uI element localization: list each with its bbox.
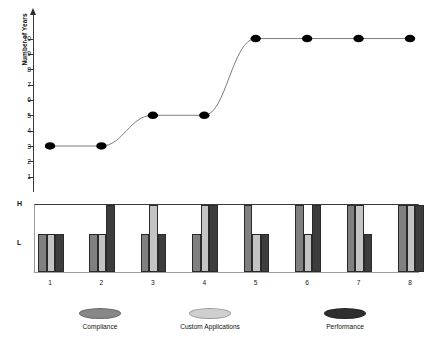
bar-group	[38, 205, 65, 272]
bar-chart-panel	[34, 204, 419, 273]
line-plot-area	[34, 14, 420, 192]
data-point-marker[interactable]	[148, 112, 158, 119]
bar[interactable]	[304, 234, 313, 272]
bar[interactable]	[364, 234, 373, 272]
bar-groups	[35, 205, 418, 272]
bar-group	[295, 205, 322, 272]
legend-label: Performance	[290, 323, 400, 331]
bar[interactable]	[192, 234, 201, 272]
legend-item[interactable]: Custom Applications	[155, 308, 265, 331]
bar[interactable]	[106, 205, 115, 272]
y-axis-tick-label: 4	[20, 127, 31, 134]
x-axis-tick-label: 6	[299, 279, 315, 286]
x-axis-tick-label: 4	[196, 279, 212, 286]
bar[interactable]	[158, 234, 167, 272]
y-axis-tick-label: 2	[20, 158, 31, 165]
x-axis-tick-label: 7	[351, 279, 367, 286]
bar[interactable]	[47, 234, 56, 272]
x-axis-tick-label: 1	[42, 279, 58, 286]
y-axis-tick-label: 10	[20, 35, 31, 42]
y-axis-tick-label: 6	[20, 96, 31, 103]
line-series-svg	[34, 14, 420, 192]
bar[interactable]	[407, 205, 416, 272]
bar[interactable]	[98, 234, 107, 272]
bar-axis-low-label: L	[17, 239, 29, 247]
bar[interactable]	[347, 205, 356, 272]
legend-label: Compliance	[45, 323, 155, 331]
y-axis-tick-label: 8	[20, 66, 31, 73]
x-axis-tick-label: 3	[145, 279, 161, 286]
data-point-marker[interactable]	[405, 35, 415, 42]
bar[interactable]	[398, 205, 407, 272]
bar[interactable]	[55, 234, 64, 272]
data-point-marker[interactable]	[251, 35, 261, 42]
y-axis-tick-label: 3	[20, 143, 31, 150]
bar[interactable]	[295, 205, 304, 272]
chart-canvas: Number of Years 12345678910 H L 12345678…	[0, 0, 428, 345]
bar[interactable]	[209, 205, 218, 272]
bar-group	[89, 205, 116, 272]
bar[interactable]	[415, 205, 424, 272]
data-point-marker[interactable]	[302, 35, 312, 42]
bar[interactable]	[89, 234, 98, 272]
bar[interactable]	[141, 234, 150, 272]
y-axis-tick-label: 1	[20, 173, 31, 180]
x-axis-tick-label: 5	[248, 279, 264, 286]
legend-item[interactable]: Compliance	[45, 308, 155, 331]
legend-label: Custom Applications	[155, 323, 265, 331]
x-axis-tick-label: 2	[93, 279, 109, 286]
bar[interactable]	[355, 205, 364, 272]
line-series-path	[50, 39, 410, 146]
data-point-marker[interactable]	[45, 142, 55, 149]
bar-axis-high-label: H	[17, 200, 29, 208]
data-point-marker[interactable]	[96, 142, 106, 149]
data-point-marker[interactable]	[199, 112, 209, 119]
bar[interactable]	[149, 205, 158, 272]
legend-ellipse-icon	[189, 308, 231, 319]
bar[interactable]	[244, 205, 253, 272]
bar-group	[244, 205, 271, 272]
legend-ellipse-icon	[324, 308, 366, 319]
bar-group	[141, 205, 168, 272]
legend-ellipse-icon	[79, 308, 121, 319]
bar[interactable]	[201, 205, 210, 272]
bar[interactable]	[312, 205, 321, 272]
legend-item[interactable]: Performance	[290, 308, 400, 331]
bar-group	[347, 205, 374, 272]
y-axis-tick-label: 9	[20, 50, 31, 57]
bar-group	[192, 205, 219, 272]
bar[interactable]	[252, 234, 261, 272]
bar[interactable]	[38, 234, 47, 272]
y-axis-tick-label: 5	[20, 112, 31, 119]
data-point-marker[interactable]	[353, 35, 363, 42]
bar-group	[398, 205, 425, 272]
bar[interactable]	[261, 234, 270, 272]
x-axis-tick-label: 8	[402, 279, 418, 286]
y-axis-tick-label: 7	[20, 81, 31, 88]
